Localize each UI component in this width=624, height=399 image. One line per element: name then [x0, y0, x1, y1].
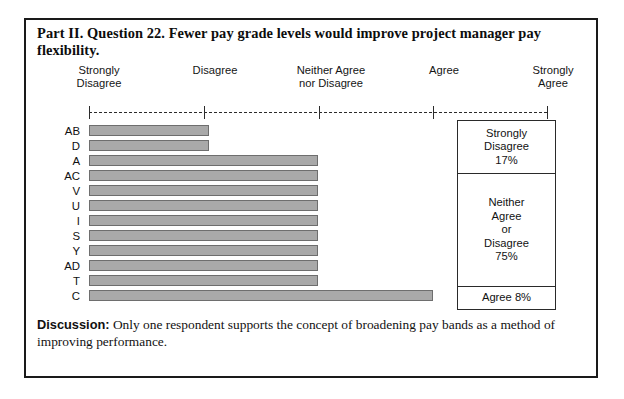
bar-ac: [89, 170, 318, 181]
axis-tick-3: [433, 106, 434, 119]
bar-label-v: V: [26, 184, 80, 198]
bar-ad: [89, 260, 318, 271]
figure-frame: Part II. Question 22. Fewer pay grade le…: [24, 18, 598, 378]
bar-a: [89, 155, 318, 166]
bar-i: [89, 215, 318, 226]
discussion-paragraph: Discussion: Only one respondent supports…: [37, 317, 587, 350]
legend-section-strongly-disagree: Strongly Disagree 17%: [458, 121, 555, 174]
bar-d: [89, 140, 209, 151]
page-title: Part II. Question 22. Fewer pay grade le…: [37, 25, 585, 58]
axis-tick-2: [319, 106, 320, 119]
bar-v: [89, 185, 318, 196]
discussion-text: Only one respondent supports the concept…: [37, 317, 555, 349]
bar-ab: [89, 125, 209, 136]
axis-dashed-line: [89, 112, 547, 113]
axis-tick-0: [89, 106, 90, 119]
bar-label-y: Y: [26, 244, 80, 258]
axis-tick-1: [204, 106, 205, 119]
bar-label-s: S: [26, 229, 80, 243]
scale-label-strongly-agree: Strongly Agree: [513, 64, 593, 90]
legend-section-neither-agree-or-disagree: Neither Agree or Disagree 75%: [458, 174, 555, 287]
scale-axis: [26, 106, 600, 120]
bar-s: [89, 230, 318, 241]
bar-label-t: T: [26, 274, 80, 288]
bar-label-i: I: [26, 214, 80, 228]
bar-label-u: U: [26, 199, 80, 213]
discussion-label: Discussion:: [37, 317, 110, 332]
legend-box: Strongly Disagree 17% Neither Agree or D…: [457, 120, 556, 310]
scale-label-strongly-disagree: Strongly Disagree: [53, 64, 145, 90]
bar-u: [89, 200, 318, 211]
axis-tick-4: [547, 106, 548, 119]
bar-label-d: D: [26, 139, 80, 153]
bar-label-c: C: [26, 289, 80, 303]
scale-header: Strongly Disagree Disagree Neither Agree…: [26, 64, 600, 106]
legend-section-agree: Agree 8%: [458, 287, 555, 309]
scale-label-agree: Agree: [398, 64, 490, 77]
bar-label-ad: AD: [26, 259, 80, 273]
bar-c: [89, 290, 433, 301]
bar-label-ab: AB: [26, 124, 80, 138]
bar-y: [89, 245, 318, 256]
bar-label-a: A: [26, 154, 80, 168]
scale-label-neither-agree-nor-disagree: Neither Agree nor Disagree: [272, 64, 390, 90]
bar-label-ac: AC: [26, 169, 80, 183]
scale-label-disagree: Disagree: [169, 64, 261, 77]
bar-t: [89, 275, 318, 286]
